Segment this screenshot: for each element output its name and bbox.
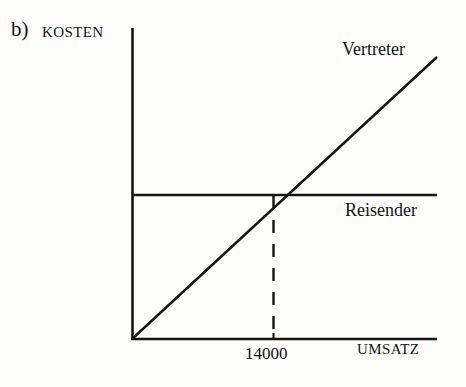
panel-letter: b) [11, 19, 29, 40]
x-axis-title: UMSATZ [357, 342, 419, 357]
chart-figure: b) KOSTEN UMSATZ Vertreter Reisender 140… [0, 0, 466, 387]
y-axis-title: KOSTEN [42, 25, 104, 40]
series-label-reisender: Reisender [345, 201, 417, 219]
series-label-vertreter: Vertreter [342, 40, 405, 58]
series-line-vertreter [132, 57, 437, 339]
x-tick-label-14000: 14000 [245, 345, 288, 362]
